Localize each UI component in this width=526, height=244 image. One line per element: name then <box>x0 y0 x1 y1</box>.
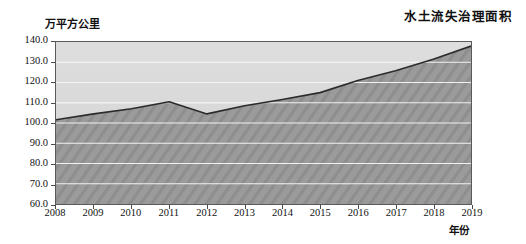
x-axis-tick-mark <box>472 205 473 209</box>
x-axis-label: 年份 <box>449 222 469 237</box>
chart-title: 水土流失治理面积 <box>404 6 512 25</box>
y-axis-tick-label: 120.0 <box>0 76 48 87</box>
x-axis-tick-mark <box>396 205 397 209</box>
x-axis-tick-mark <box>434 205 435 209</box>
y-axis-tick-label: 140.0 <box>0 35 48 46</box>
x-axis-tick-mark <box>207 205 208 209</box>
y-axis-tick-label: 130.0 <box>0 56 48 67</box>
x-axis-tick-mark <box>93 205 94 209</box>
x-axis-tick-mark <box>282 205 283 209</box>
x-axis-tick-mark <box>358 205 359 209</box>
x-axis-tick-mark <box>131 205 132 209</box>
y-axis-tick-label: 80.0 <box>0 158 48 169</box>
x-axis-tick-mark <box>169 205 170 209</box>
y-axis-tick-label: 100.0 <box>0 117 48 128</box>
plot-area <box>55 41 472 205</box>
area-chart-svg <box>56 42 471 204</box>
x-axis-tick-mark <box>320 205 321 209</box>
y-axis-tick-label: 70.0 <box>0 179 48 190</box>
y-axis-tick-label: 110.0 <box>0 97 48 108</box>
y-axis-tick-label: 90.0 <box>0 138 48 149</box>
x-axis-tick-mark <box>55 205 56 209</box>
x-axis-tick-mark <box>245 205 246 209</box>
y-axis-unit-label: 万平方公里 <box>45 15 100 31</box>
x-axis-tick-label: 2019 <box>450 208 494 219</box>
chart-container: 水土流失治理面积 万平方公里 140.0130.0120.0110.0100.0… <box>0 0 526 244</box>
